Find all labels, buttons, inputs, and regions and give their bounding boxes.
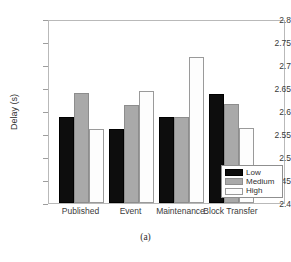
bar-high-maintenance	[189, 57, 204, 203]
legend-swatch-low	[225, 169, 243, 176]
legend-item-low[interactable]: Low	[224, 168, 280, 177]
legend: LowMediumHigh	[221, 165, 283, 198]
figure-caption: (a)	[0, 232, 291, 242]
y-tick-label: 2.65	[249, 85, 291, 94]
bar-medium-event	[124, 105, 139, 203]
legend-item-medium[interactable]: Medium	[224, 177, 280, 186]
y-tick-label: 2.5	[249, 154, 291, 163]
bar-low-event	[109, 129, 124, 203]
y-tick-label: 2.75	[249, 39, 291, 48]
legend-label-low: Low	[246, 169, 261, 177]
y-tick-mark	[43, 181, 48, 182]
x-tick-label-event: Event	[120, 206, 142, 216]
bar-low-maintenance	[159, 117, 174, 203]
bar-low-published	[59, 117, 74, 203]
legend-label-high: High	[246, 187, 262, 195]
y-tick-mark	[43, 43, 48, 44]
y-axis-title: Delay (s)	[9, 52, 19, 172]
y-tick-label: 2.8	[249, 16, 291, 25]
y-tick-label: 2.7	[249, 62, 291, 71]
y-tick-label: 2.6	[249, 108, 291, 117]
bar-medium-published	[74, 93, 89, 203]
y-tick-mark	[43, 112, 48, 113]
y-tick-mark	[43, 158, 48, 159]
bar-high-published	[89, 129, 104, 203]
legend-label-medium: Medium	[246, 178, 274, 186]
y-tick-mark	[43, 89, 48, 90]
x-tick-label-block-transfer: Block Transfer	[203, 206, 257, 216]
y-tick-mark	[43, 204, 48, 205]
legend-swatch-high	[225, 188, 243, 195]
bar-high-event	[139, 91, 154, 203]
y-tick-mark	[43, 66, 48, 67]
x-tick-label-published: Published	[62, 206, 99, 216]
y-tick-label: 2.55	[249, 131, 291, 140]
bar-medium-maintenance	[174, 117, 189, 203]
x-tick-label-maintenance: Maintenance	[156, 206, 205, 216]
y-tick-mark	[43, 135, 48, 136]
y-tick-mark	[43, 20, 48, 21]
legend-swatch-medium	[225, 178, 243, 185]
y-axis-title-wrapper: Delay (s)	[0, 20, 20, 204]
legend-item-high[interactable]: High	[224, 187, 280, 196]
figure-container: 2.42.452.52.552.62.652.72.752.8 Delay (s…	[0, 0, 291, 262]
